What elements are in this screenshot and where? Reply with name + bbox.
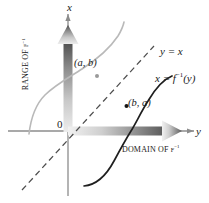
inverse-function-figure: x y 0 (a, b) (b, a) y = x x = f−1(y) RAN… [0,0,209,203]
point-marker-ab [95,74,99,78]
function-f-curve [29,22,124,134]
identity-line-y-equals-x [22,46,154,190]
figure-canvas [0,0,209,203]
point-marker-ba [125,104,129,108]
domain-of-inverse-arrow [68,121,182,142]
